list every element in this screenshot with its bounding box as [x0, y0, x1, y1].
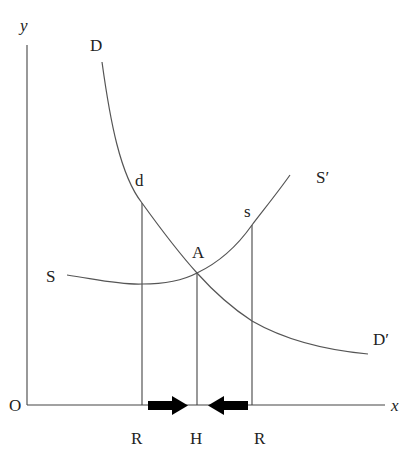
- x-mark-left-r: R: [131, 429, 143, 448]
- y-axis-label: y: [18, 16, 28, 35]
- demand-end-label: D′: [373, 330, 389, 349]
- supply-point-label: s: [244, 202, 251, 221]
- x-axis-label: x: [390, 396, 399, 415]
- supply-demand-diagram: y x O D D′ d S S′ s A R H R: [0, 0, 415, 451]
- origin-label: O: [9, 396, 21, 415]
- demand-point-label: d: [135, 171, 144, 190]
- equilibrium-label: A: [192, 243, 205, 262]
- demand-start-label: D: [90, 36, 102, 55]
- x-mark-right-r: R: [254, 429, 266, 448]
- x-mark-h: H: [190, 429, 202, 448]
- supply-curve: [67, 175, 290, 284]
- supply-start-label: S: [46, 267, 55, 286]
- supply-end-label: S′: [316, 168, 329, 187]
- arrow-left-icon: [208, 396, 248, 415]
- arrow-right-icon: [148, 396, 188, 415]
